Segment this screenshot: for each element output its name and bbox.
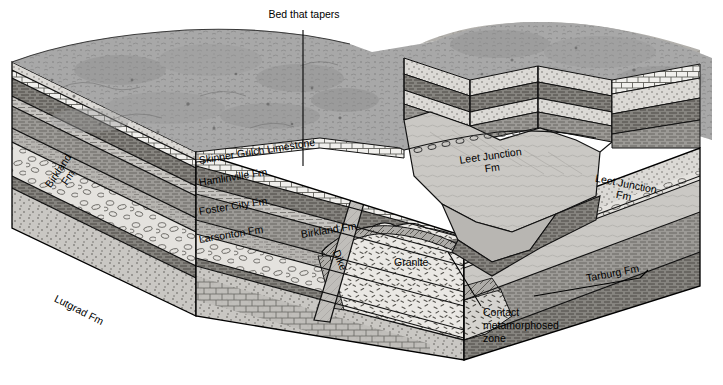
annotation-bed-that-tapers: Bed that tapers [246,8,362,20]
contact-zone-line2: metamorphosed [483,319,559,332]
contact-zone-line3: zone [483,332,559,345]
contact-zone-line1: Contact [483,306,559,319]
annotation-contact-metamorphosed-zone: Contact metamorphosed zone [483,306,559,345]
block-diagram-figure: Bed that tapers Skinner Gulch Limestone … [0,0,723,385]
label-granite: Granite [394,256,428,268]
